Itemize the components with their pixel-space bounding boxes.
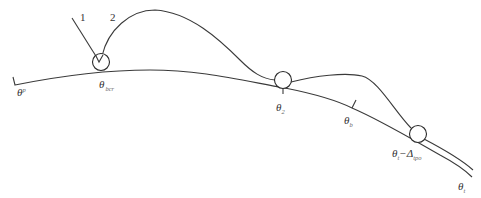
trajectory-diagram: 1 2 θp θbcr θ2 θb θt−Δtpo θt xyxy=(0,0,481,198)
secondary-profile xyxy=(424,139,473,170)
tick-theta-b xyxy=(352,100,356,108)
trajectory-line-1 xyxy=(72,18,99,61)
label-theta-2: θ2 xyxy=(276,101,285,115)
diagram-canvas: 1 2 θp θbcr θ2 θb θt−Δtpo θt xyxy=(0,0,481,198)
ball-landing-2 xyxy=(275,72,292,89)
ball-takeoff xyxy=(93,54,110,71)
label-theta-t-minus-delta: θt−Δtpo xyxy=(392,147,422,161)
ground-profile xyxy=(13,70,472,177)
label-theta-t: θt xyxy=(458,180,465,194)
ball-landing-3 xyxy=(410,126,427,143)
label-theta-b: θb xyxy=(344,114,353,128)
trajectory-curve-3 xyxy=(291,74,411,128)
trajectory-curve-2 xyxy=(102,10,275,80)
label-theta-bcr: θbcr xyxy=(99,78,115,92)
label-line-2: 2 xyxy=(110,11,116,23)
label-line-1: 1 xyxy=(80,11,86,23)
label-theta-p: θp xyxy=(17,86,26,98)
